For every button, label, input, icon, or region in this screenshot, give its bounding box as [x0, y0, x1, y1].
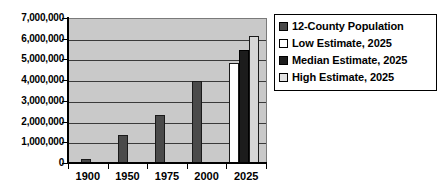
plot-area	[68, 18, 267, 164]
y-axis-tick-label: 2,000,000	[2, 117, 64, 127]
legend-item[interactable]: High Estimate, 2025	[279, 69, 432, 85]
x-axis-tick-mark	[187, 164, 188, 169]
y-axis-labels: 01,000,0002,000,0003,000,0004,000,0005,0…	[0, 0, 64, 193]
legend-swatch-icon	[279, 39, 288, 48]
x-axis-tick-label-2000: 2000	[194, 170, 218, 182]
bar-2025-median-estimate	[239, 50, 249, 164]
y-axis-tick-mark	[62, 80, 68, 81]
bar-2025-high-estimate	[249, 36, 259, 164]
y-axis-tick-label: 3,000,000	[2, 96, 64, 106]
bar-1975-population	[155, 115, 165, 164]
legend-item[interactable]: Median Estimate, 2025	[279, 52, 432, 68]
legend-swatch-icon	[279, 22, 288, 31]
y-axis-tick-label: 5,000,000	[2, 54, 64, 64]
y-axis-tick-mark	[62, 39, 68, 40]
x-axis-tick-mark	[68, 164, 69, 169]
y-axis-tick-mark	[62, 122, 68, 123]
legend-item-label: Median Estimate, 2025	[292, 54, 407, 66]
y-axis-tick-label: 7,000,000	[2, 13, 64, 23]
x-axis-tick-label-1975: 1975	[155, 170, 179, 182]
bar-2000-population	[192, 81, 202, 164]
y-axis-tick-mark	[62, 101, 68, 102]
chart-legend: 12-County PopulationLow Estimate, 2025Me…	[274, 14, 437, 91]
y-axis-tick-label: 0	[2, 158, 64, 168]
y-axis-tick-label: 4,000,000	[2, 75, 64, 85]
gridline	[68, 60, 266, 61]
x-axis-labels: 19001950197520002025	[68, 170, 266, 186]
y-axis-tick-mark	[62, 142, 68, 143]
x-axis-tick-mark	[108, 164, 109, 169]
y-axis-tick-mark	[62, 59, 68, 60]
y-axis-tick-label: 1,000,000	[2, 137, 64, 147]
x-axis-tick-mark	[266, 164, 267, 169]
legend-swatch-icon	[279, 56, 288, 65]
legend-swatch-icon	[279, 73, 288, 82]
y-axis-tick-mark	[62, 18, 68, 19]
y-axis-tick-label: 6,000,000	[2, 34, 64, 44]
gridline	[68, 40, 266, 41]
legend-item[interactable]: 12-County Population	[279, 18, 432, 34]
x-axis-tick-mark	[147, 164, 148, 169]
legend-item-label: 12-County Population	[292, 20, 404, 32]
legend-item[interactable]: Low Estimate, 2025	[279, 35, 432, 51]
bar-1950-population	[118, 135, 128, 164]
x-axis-tick-label-1950: 1950	[115, 170, 139, 182]
x-axis-line	[67, 162, 267, 164]
legend-item-label: High Estimate, 2025	[292, 71, 394, 83]
legend-item-label: Low Estimate, 2025	[292, 37, 392, 49]
bar-2025-low-estimate	[229, 63, 239, 165]
x-axis-tick-label-2025: 2025	[234, 170, 258, 182]
x-axis-tick-label-1900: 1900	[76, 170, 100, 182]
x-axis-tick-mark	[226, 164, 227, 169]
population-bar-chart: 01,000,0002,000,0003,000,0004,000,0005,0…	[0, 0, 441, 193]
